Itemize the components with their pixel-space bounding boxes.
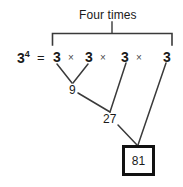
lines-to-eightyone bbox=[118, 63, 166, 145]
factor-4: 3 bbox=[163, 50, 171, 64]
equals-sign: = bbox=[37, 51, 45, 64]
intermediate-result-twentyseven: 27 bbox=[103, 113, 116, 125]
four-times-bracket bbox=[53, 22, 173, 45]
line-factor3-to-twentyseven bbox=[110, 63, 126, 112]
line-factor1-to-nine bbox=[57, 64, 72, 83]
final-answer-box: 81 bbox=[122, 145, 155, 176]
line-nine-to-twentyseven bbox=[78, 93, 110, 112]
factor-1: 3 bbox=[53, 50, 61, 64]
times-sign-1: × bbox=[68, 53, 74, 63]
final-answer-value: 81 bbox=[125, 148, 152, 173]
lines-to-twentyseven bbox=[78, 63, 126, 112]
bracket-path bbox=[53, 34, 173, 46]
exponent-expansion-diagram: Four times 34 = 3 × 3 × 3 × 3 9 27 81 bbox=[0, 0, 183, 187]
intermediate-result-nine: 9 bbox=[69, 84, 76, 96]
diagram-lines bbox=[0, 0, 183, 187]
line-twentyseven-to-eightyone bbox=[118, 125, 137, 145]
caption-four-times: Four times bbox=[79, 9, 137, 21]
power-base: 3 bbox=[17, 50, 25, 66]
power-exponent: 4 bbox=[25, 49, 30, 59]
line-factor2-to-nine bbox=[73, 64, 88, 83]
lines-to-nine bbox=[57, 64, 88, 83]
times-sign-2: × bbox=[100, 53, 106, 63]
factor-2: 3 bbox=[85, 50, 93, 64]
factor-3: 3 bbox=[121, 50, 129, 64]
times-sign-3: × bbox=[136, 53, 142, 63]
line-factor4-to-eightyone bbox=[138, 63, 166, 145]
power-expression: 34 bbox=[17, 50, 30, 66]
